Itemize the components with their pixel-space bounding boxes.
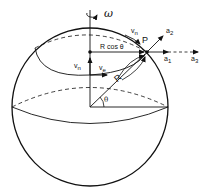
theta-label: θ	[104, 97, 108, 104]
a2-arrow	[147, 36, 163, 52]
vn-top-label: vn	[131, 27, 138, 36]
vn-surface-arrow	[125, 35, 140, 44]
a3-label: a3	[191, 55, 198, 64]
equator-front	[12, 107, 168, 124]
vn-axis-label: vn	[74, 62, 81, 71]
ve-label: ve	[99, 64, 106, 73]
r-cos-theta-label: R cos θ	[100, 43, 124, 50]
omega-label: ω	[104, 8, 113, 19]
a2-label: a2	[166, 27, 173, 36]
a1-label: a1	[164, 55, 171, 64]
rotation-curl-icon	[87, 13, 97, 17]
point-p-label: P	[142, 36, 148, 45]
